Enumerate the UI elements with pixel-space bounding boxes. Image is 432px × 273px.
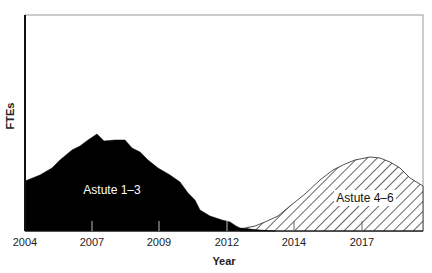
y-axis-title: FTEs [4,103,16,130]
x-tick-labels: 2004 2007 2009 2012 2014 2017 [13,236,374,248]
x-tick-2007: 2007 [80,236,104,248]
x-tick-2014: 2014 [282,236,306,248]
series-label-astute-1-3: Astute 1–3 [83,183,141,197]
area-chart: 2004 2007 2009 2012 2014 2017 Year FTEs … [0,0,432,273]
x-tick-2012: 2012 [215,236,239,248]
x-tick-2017: 2017 [350,236,374,248]
x-tick-2009: 2009 [147,236,171,248]
x-axis-title: Year [212,255,236,267]
x-tick-2004: 2004 [13,236,37,248]
series-label-astute-4-6: Astute 4–6 [336,191,394,205]
